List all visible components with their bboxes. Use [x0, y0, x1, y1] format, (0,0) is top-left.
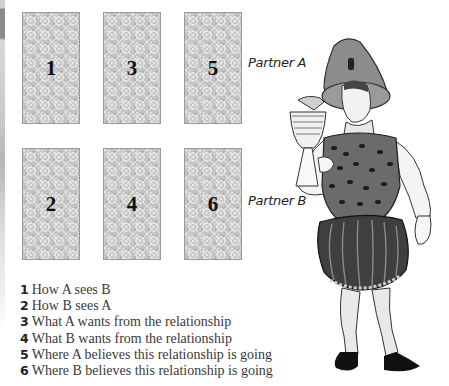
legend-item: 4What B wants from the relationship — [20, 331, 273, 347]
card-number: 6 — [208, 194, 219, 215]
card-number: 2 — [46, 194, 57, 215]
legend-item: 5Where A believes this relationship is g… — [20, 347, 273, 363]
card-number: 3 — [127, 58, 138, 79]
card-position-3: 3 — [103, 12, 161, 124]
card-position-4: 4 — [103, 148, 161, 260]
card-position-6: 6 — [184, 148, 242, 260]
legend-item: 3What A wants from the relationship — [20, 314, 273, 330]
position-legend: 1How A sees B 2How B sees A 3What A want… — [20, 282, 273, 379]
card-position-2: 2 — [22, 148, 80, 260]
figure-illustration-icon — [284, 36, 449, 376]
legend-item: 2How B sees A — [20, 298, 273, 314]
page-edge-strip — [0, 0, 5, 386]
card-position-1: 1 — [22, 12, 80, 124]
legend-item: 1How A sees B — [20, 282, 273, 298]
card-number: 1 — [46, 58, 57, 79]
card-number: 4 — [127, 194, 138, 215]
card-number: 5 — [208, 58, 219, 79]
legend-item: 6Where B believes this relationship is g… — [20, 363, 273, 379]
card-position-5: 5 — [184, 12, 242, 124]
